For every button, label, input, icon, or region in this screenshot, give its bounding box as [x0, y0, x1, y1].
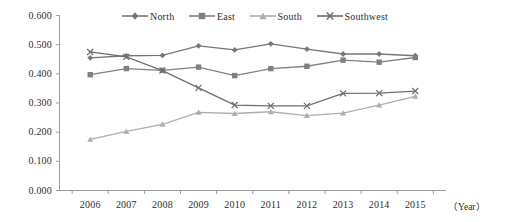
- y-axis-tick-label: 0.300: [10, 97, 52, 108]
- y-axis-tick-label: 0.600: [10, 10, 52, 21]
- x-axis-tick-label: 2007: [106, 199, 146, 210]
- y-axis-tick-label: 0.200: [10, 126, 52, 137]
- x-axis-tick-label: 2011: [251, 199, 291, 210]
- x-axis-tick-label: 2009: [179, 199, 219, 210]
- x-axis-tick-label: 2008: [142, 199, 182, 210]
- plot-area: [0, 0, 507, 222]
- x-axis-tick-label: 2014: [359, 199, 399, 210]
- x-axis-tick-label: 2010: [215, 199, 255, 210]
- x-axis-title: （Year）: [448, 199, 486, 213]
- y-axis-tick-label: 0.500: [10, 39, 52, 50]
- line-chart: North East South Southwest: [0, 0, 507, 222]
- x-axis-tick-label: 2015: [395, 199, 435, 210]
- y-axis-tick-label: 0.000: [10, 185, 52, 196]
- x-axis-tick-label: 2006: [70, 199, 110, 210]
- x-axis-tick-label: 2012: [287, 199, 327, 210]
- y-axis-tick-label: 0.100: [10, 155, 52, 166]
- x-axis-tick-label: 2013: [323, 199, 363, 210]
- y-axis-tick-label: 0.400: [10, 68, 52, 79]
